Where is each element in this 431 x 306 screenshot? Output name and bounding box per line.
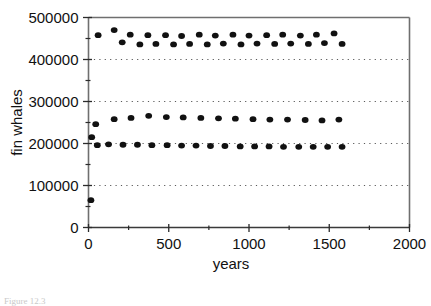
data-point	[180, 115, 187, 121]
data-point	[134, 142, 141, 148]
data-point	[266, 144, 273, 150]
data-point	[254, 41, 261, 47]
data-point	[222, 143, 229, 149]
data-point	[204, 41, 211, 47]
data-point	[136, 41, 143, 47]
data-point	[232, 116, 239, 122]
data-point	[339, 144, 346, 150]
data-point	[335, 117, 342, 123]
data-point	[95, 32, 102, 38]
data-point	[263, 32, 270, 38]
data-point	[88, 134, 95, 140]
data-point	[305, 41, 312, 47]
data-point	[280, 144, 287, 150]
data-point	[212, 33, 219, 39]
x-tick-label-0: 0	[84, 235, 92, 252]
data-point	[178, 33, 185, 39]
series-origin-point	[88, 197, 95, 203]
data-point	[279, 32, 286, 38]
data-point	[120, 142, 127, 148]
y-tick-label-400000: 400000	[28, 51, 78, 68]
data-point	[271, 41, 278, 47]
data-point	[178, 143, 185, 149]
data-point	[148, 142, 155, 148]
scatter-chart: 0100000200000300000400000500000 05001000…	[0, 0, 431, 306]
data-point	[287, 41, 294, 47]
data-point	[237, 144, 244, 150]
y-tick-label-500000: 500000	[28, 9, 78, 26]
x-axis-label: years	[213, 255, 250, 272]
y-tick-label-100000: 100000	[28, 177, 78, 194]
data-point	[119, 39, 126, 45]
data-point	[170, 41, 177, 47]
data-point	[324, 144, 331, 150]
data-point	[207, 143, 214, 149]
data-point	[302, 117, 309, 123]
figure-caption: Figure 12.3	[4, 296, 46, 306]
y-tick-label-200000: 200000	[28, 135, 78, 152]
data-point	[144, 32, 151, 38]
data-point	[128, 115, 135, 121]
data-point	[251, 144, 258, 150]
x-tick-label-2000: 2000	[393, 235, 426, 252]
data-point	[111, 27, 118, 33]
data-point	[313, 32, 320, 38]
data-point	[215, 115, 222, 121]
data-point	[111, 116, 118, 122]
x-tick-label-500: 500	[156, 235, 181, 252]
data-point	[238, 41, 245, 47]
data-point	[145, 113, 152, 119]
data-point	[339, 41, 346, 47]
data-point	[163, 114, 170, 120]
data-point	[94, 142, 101, 148]
data-point	[266, 117, 273, 123]
data-point	[295, 144, 302, 150]
chart-figure: 0100000200000300000400000500000 05001000…	[0, 0, 431, 306]
data-point	[284, 117, 291, 123]
y-tick-label-300000: 300000	[28, 93, 78, 110]
x-tick-label-1500: 1500	[313, 235, 346, 252]
data-point	[164, 142, 171, 148]
data-point	[297, 33, 304, 39]
data-point	[230, 32, 237, 38]
data-point	[321, 40, 328, 46]
data-point	[186, 41, 193, 47]
data-point	[319, 118, 326, 124]
data-point	[162, 32, 169, 38]
y-axis-label: fin whales	[8, 89, 25, 156]
data-point	[92, 121, 99, 127]
data-point	[153, 41, 160, 47]
data-point	[193, 143, 200, 149]
data-point	[197, 115, 204, 121]
data-point	[310, 144, 317, 150]
data-point	[105, 141, 112, 147]
data-point	[331, 31, 338, 37]
x-tick-label-1000: 1000	[232, 235, 265, 252]
data-point	[220, 41, 227, 47]
y-tick-label-0: 0	[70, 219, 78, 236]
data-point	[88, 197, 95, 203]
data-point	[196, 32, 203, 38]
data-point	[246, 33, 253, 39]
data-point	[127, 32, 134, 38]
data-point	[250, 116, 257, 122]
